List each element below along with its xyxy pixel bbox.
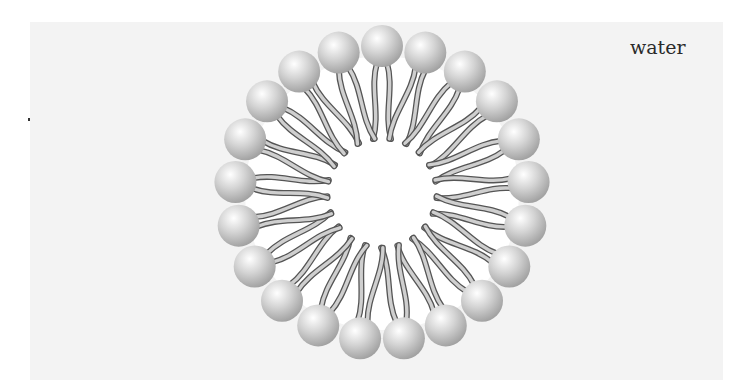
lipid-head — [318, 32, 360, 74]
lipid-tail — [373, 63, 377, 139]
lipid-head — [461, 280, 503, 322]
lipid-head — [224, 118, 266, 160]
lipid-head — [339, 317, 381, 359]
lipid-head — [383, 317, 425, 359]
lipid-head — [234, 246, 276, 288]
lipid-head — [361, 25, 403, 67]
lipid-head — [508, 161, 550, 203]
lipid-head — [425, 304, 467, 346]
lipid-head — [476, 80, 518, 122]
lipid-head — [246, 80, 288, 122]
lipid-head — [261, 280, 303, 322]
lipid-head — [214, 161, 256, 203]
lipid-head — [498, 118, 540, 160]
micelle-diagram — [0, 0, 734, 382]
lipid-head — [297, 304, 339, 346]
lipid-head — [504, 205, 546, 247]
lipid-head — [278, 51, 320, 93]
lipid-head — [218, 205, 260, 247]
lipid-head — [404, 32, 446, 74]
lipid-head — [488, 246, 530, 288]
lipid-head — [444, 51, 486, 93]
water-label: water — [630, 36, 686, 58]
